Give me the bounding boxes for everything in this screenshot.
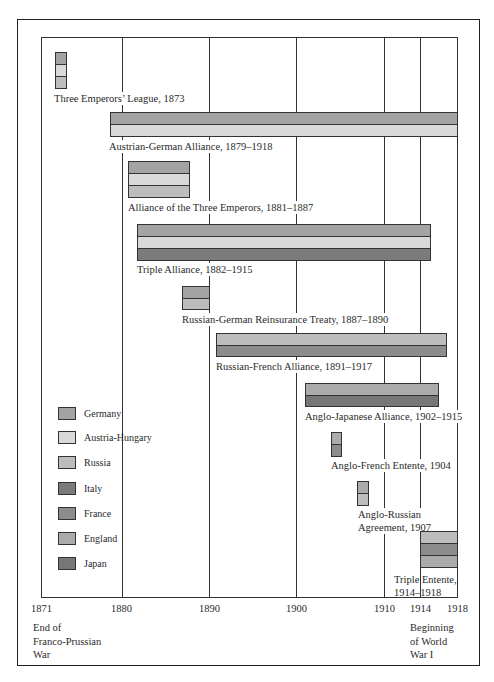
stripe-italy (138, 249, 430, 260)
tick-1880: 1880 (111, 603, 132, 614)
legend-swatch-italy (58, 482, 76, 495)
legend-item-japan: Japan (58, 556, 107, 571)
tick-1910: 1910 (374, 603, 395, 614)
stripe-austria-hungary (129, 174, 189, 186)
stripe-japan (306, 396, 438, 407)
bar-austrian-german-alliance (110, 112, 458, 137)
annotation-end-franco-prussian-war: End of Franco-Prussian War (33, 621, 101, 662)
stripe-austria-hungary (56, 65, 66, 77)
annotation-line: End of (33, 621, 101, 635)
legend-swatch-france (58, 507, 76, 520)
legend-label-italy: Italy (84, 483, 102, 494)
bar-russian-french-alliance (216, 333, 447, 357)
bar-anglo-russian-agreement (357, 481, 369, 506)
annotation-beginning-wwi: Beginning of World War I (410, 621, 454, 662)
legend-item-germany: Germany (58, 406, 121, 421)
annotation-line: Beginning (410, 621, 454, 635)
legend-item-austria-hungary: Austria-Hungary (58, 430, 152, 445)
stripe-germany (56, 53, 66, 65)
stripe-germany (111, 113, 457, 125)
label-russian-french-alliance: Russian-French Alliance, 1891–1917 (216, 360, 372, 373)
stripe-england (306, 384, 438, 396)
stripe-russia (217, 334, 446, 346)
bar-three-emperors-league (55, 52, 67, 89)
label-triple-entente-line2: 1914–1918 (394, 586, 441, 599)
legend-label-france: France (84, 508, 111, 519)
legend-label-england: England (84, 533, 117, 544)
bar-triple-alliance (137, 224, 431, 261)
legend-label-germany: Germany (84, 408, 121, 419)
stripe-russia (56, 77, 66, 88)
legend-label-japan: Japan (84, 558, 107, 569)
stripe-russia (129, 186, 189, 197)
stripe-russia (183, 299, 209, 310)
legend-swatch-england (58, 532, 76, 545)
bar-triple-entente (420, 531, 458, 568)
label-alliance-three-emperors: Alliance of the Three Emperors, 1881–188… (128, 201, 313, 214)
label-triple-alliance: Triple Alliance, 1882–1915 (137, 263, 252, 276)
stripe-england (358, 482, 368, 494)
tick-1900: 1900 (286, 603, 307, 614)
label-triple-entente-line1: Triple Entente, (394, 573, 457, 586)
legend-item-france: France (58, 506, 111, 521)
label-three-emperors-league: Three Emperors’ League, 1873 (54, 92, 184, 105)
stripe-austria-hungary (111, 125, 457, 136)
legend-swatch-japan (58, 557, 76, 570)
tick-1890: 1890 (199, 603, 220, 614)
tick-1871: 1871 (31, 603, 52, 614)
label-anglo-french-entente: Anglo-French Entente, 1904 (331, 459, 451, 472)
stripe-russia (358, 494, 368, 505)
legend-label-russia: Russia (84, 457, 111, 468)
label-austrian-german-alliance: Austrian-German Alliance, 1879–1918 (109, 140, 273, 153)
stripe-russia (421, 532, 457, 544)
tick-1918: 1918 (447, 603, 468, 614)
label-reinsurance-treaty: Russian-German Reinsurance Treaty, 1887–… (182, 313, 388, 326)
tick-1914: 1914 (410, 603, 431, 614)
stripe-germany (183, 287, 209, 299)
label-anglo-japanese-alliance: Anglo-Japanese Alliance, 1902–1915 (305, 410, 462, 423)
bar-alliance-three-emperors (128, 161, 190, 198)
annotation-line: War (33, 648, 101, 662)
bar-anglo-french-entente (331, 432, 342, 457)
stripe-france (421, 544, 457, 556)
legend-item-russia: Russia (58, 455, 111, 470)
label-anglo-russian-agreement-line1: Anglo-Russian (358, 508, 421, 521)
bar-anglo-japanese-alliance (305, 383, 439, 407)
legend-label-austria-hungary: Austria-Hungary (84, 432, 152, 443)
stripe-england (332, 433, 341, 445)
legend-swatch-russia (58, 456, 76, 469)
stripe-germany (138, 225, 430, 237)
stripe-germany (129, 162, 189, 174)
annotation-line: Franco-Prussian (33, 635, 101, 649)
legend-swatch-germany (58, 407, 76, 420)
stripe-england (421, 556, 457, 567)
legend-item-england: England (58, 531, 117, 546)
legend-swatch-austria-hungary (58, 431, 76, 444)
bar-reinsurance-treaty (182, 286, 210, 310)
stripe-france (217, 346, 446, 357)
stripe-france (332, 445, 341, 456)
legend-item-italy: Italy (58, 481, 102, 496)
stripe-austria-hungary (138, 237, 430, 249)
annotation-line: War I (410, 648, 454, 662)
annotation-line: of World (410, 635, 454, 649)
